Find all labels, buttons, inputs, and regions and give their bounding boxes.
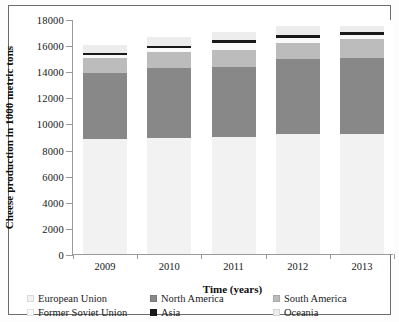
x-axis-tick bbox=[330, 254, 331, 259]
x-axis-tick-label: 2011 bbox=[223, 261, 244, 272]
y-axis-title: Cheese production in 1000 metric tons bbox=[3, 20, 19, 255]
y-axis-tick-label: 4000 bbox=[42, 197, 64, 208]
x-axis-tick-label: 2012 bbox=[287, 261, 308, 272]
bar-segment[interactable] bbox=[340, 58, 384, 134]
legend-item[interactable]: European Union bbox=[27, 292, 150, 305]
legend-item[interactable]: Oceania bbox=[273, 306, 385, 319]
bar-group[interactable] bbox=[276, 26, 320, 254]
legend-item[interactable]: Former Soviet Union bbox=[27, 306, 150, 319]
bar-group[interactable] bbox=[340, 26, 384, 254]
bar-segment[interactable] bbox=[83, 58, 127, 72]
y-axis-tick bbox=[66, 255, 73, 256]
bar-segment[interactable] bbox=[83, 45, 127, 53]
y-axis-tick-label: 18000 bbox=[37, 15, 64, 26]
x-axis-tick bbox=[73, 254, 74, 259]
legend-item[interactable]: Asia bbox=[150, 306, 273, 319]
y-axis-tick bbox=[66, 98, 73, 99]
legend-swatch-icon bbox=[273, 309, 280, 316]
bar-segment[interactable] bbox=[276, 26, 320, 35]
bar-segment[interactable] bbox=[147, 138, 191, 254]
bar-segment[interactable] bbox=[83, 73, 127, 140]
x-axis-tick-label: 2009 bbox=[95, 261, 116, 272]
bar-segment[interactable] bbox=[147, 68, 191, 138]
legend-swatch-icon bbox=[27, 295, 34, 302]
legend-item-label: European Union bbox=[38, 292, 107, 305]
y-axis-tick bbox=[66, 20, 73, 21]
x-axis-tick-label: 2013 bbox=[351, 261, 372, 272]
legend-swatch-icon bbox=[27, 309, 34, 316]
bar-segment[interactable] bbox=[276, 43, 320, 59]
bar-segment[interactable] bbox=[147, 37, 191, 46]
y-axis-tick-label: 6000 bbox=[42, 171, 64, 182]
plot-area: 0200040006000800010000120001400016000180… bbox=[72, 20, 393, 255]
y-axis-tick bbox=[66, 229, 73, 230]
y-axis-tick-label: 10000 bbox=[37, 119, 64, 130]
bar-segment[interactable] bbox=[276, 59, 320, 133]
bar-segment[interactable] bbox=[212, 50, 256, 66]
bar-group[interactable] bbox=[147, 37, 191, 254]
chart-legend: European UnionNorth AmericaSouth America… bbox=[27, 292, 385, 319]
figure-frame: Cheese production in 1000 metric tons 02… bbox=[8, 5, 391, 315]
legend-item[interactable]: South America bbox=[273, 292, 385, 305]
bar-group[interactable] bbox=[83, 45, 127, 254]
y-axis-tick-label: 12000 bbox=[37, 93, 64, 104]
y-axis-tick-label: 0 bbox=[59, 250, 64, 261]
x-axis-tick bbox=[266, 254, 267, 259]
bar-group[interactable] bbox=[212, 32, 256, 254]
legend-item-label: Oceania bbox=[284, 306, 318, 319]
y-axis-tick bbox=[66, 177, 73, 178]
y-axis-tick bbox=[66, 203, 73, 204]
y-axis-tick bbox=[66, 72, 73, 73]
bar-segment[interactable] bbox=[212, 137, 256, 255]
bar-segment[interactable] bbox=[83, 139, 127, 254]
x-axis-tick bbox=[137, 254, 138, 259]
bar-segment[interactable] bbox=[276, 134, 320, 254]
legend-swatch-icon bbox=[273, 295, 280, 302]
legend-item-label: North America bbox=[161, 292, 224, 305]
x-axis-tick bbox=[394, 254, 395, 259]
bar-segment[interactable] bbox=[340, 39, 384, 57]
bar-segment[interactable] bbox=[212, 32, 256, 40]
y-axis-tick-label: 14000 bbox=[37, 67, 64, 78]
legend-item[interactable]: North America bbox=[150, 292, 273, 305]
chart-figure: Cheese production in 1000 metric tons 02… bbox=[0, 0, 399, 322]
y-axis-tick-label: 2000 bbox=[42, 223, 64, 234]
x-axis-tick bbox=[201, 254, 202, 259]
y-axis-tick bbox=[66, 124, 73, 125]
legend-item-label: Asia bbox=[161, 306, 180, 319]
bar-segment[interactable] bbox=[212, 67, 256, 137]
y-axis-tick-label: 8000 bbox=[42, 145, 64, 156]
legend-item-label: South America bbox=[284, 292, 347, 305]
bar-segment[interactable] bbox=[212, 43, 256, 51]
legend-item-label: Former Soviet Union bbox=[38, 306, 127, 319]
y-axis-tick bbox=[66, 46, 73, 47]
y-axis-tick-label: 16000 bbox=[37, 41, 64, 52]
legend-swatch-icon bbox=[150, 309, 157, 316]
y-axis-tick bbox=[66, 151, 73, 152]
bar-segment[interactable] bbox=[147, 52, 191, 68]
x-axis-tick-label: 2010 bbox=[159, 261, 180, 272]
legend-swatch-icon bbox=[150, 295, 157, 302]
bar-segment[interactable] bbox=[340, 134, 384, 254]
